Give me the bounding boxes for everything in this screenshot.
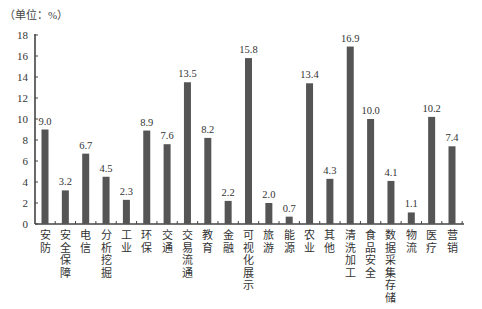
category-label-char: 流: [406, 241, 417, 254]
category-label-char: 源: [284, 241, 295, 254]
y-tick-label: 6: [23, 155, 29, 167]
category-label-char: 展: [243, 267, 254, 279]
category-label-char: 疗: [426, 241, 437, 254]
category-label-char: 掘: [101, 266, 112, 279]
category-label-char: 通: [182, 267, 193, 279]
category-label-char: 析: [101, 241, 112, 254]
bar: [143, 131, 150, 224]
category-label-char: 信: [80, 242, 91, 254]
y-tick-label: 12: [17, 92, 28, 104]
category-label-char: 清: [345, 229, 356, 241]
category-label-char: 其: [324, 229, 335, 241]
category-label-char: 安: [60, 228, 71, 241]
category-label-char: 存: [385, 278, 396, 291]
bar: [286, 217, 293, 224]
category-label-char: 医: [426, 229, 437, 241]
value-label: 15.8: [239, 44, 257, 55]
y-tick-label: 18: [17, 29, 29, 41]
value-label: 8.2: [201, 124, 214, 135]
category-label-char: 育: [202, 241, 213, 254]
bar: [164, 144, 171, 224]
value-label: 7.4: [445, 132, 459, 143]
y-tick-label: 0: [23, 218, 29, 230]
value-label: 7.6: [161, 130, 174, 141]
value-label: 4.5: [99, 163, 112, 174]
category-label-char: 易: [182, 242, 193, 254]
category-label-char: 他: [324, 242, 335, 254]
y-tick-label: 10: [17, 113, 29, 125]
category-label-char: 示: [243, 279, 254, 291]
category-label-char: 物: [406, 228, 417, 241]
category-label-char: 电: [80, 229, 91, 241]
y-tick-label: 8: [23, 134, 29, 146]
y-tick-label: 2: [23, 197, 29, 209]
category-label-char: 教: [202, 229, 213, 241]
category-label-char: 游: [263, 242, 274, 254]
value-label: 13.4: [300, 69, 319, 80]
y-tick-label: 16: [17, 50, 29, 62]
value-label: 3.2: [59, 176, 72, 187]
bar: [123, 200, 130, 224]
category-label-char: 金: [223, 228, 234, 241]
bar: [245, 58, 252, 224]
value-label: 1.1: [405, 198, 418, 209]
category-label-char: 业: [121, 242, 132, 254]
bar: [408, 212, 415, 224]
category-label-char: 工: [121, 229, 132, 241]
category-label-char: 环: [141, 229, 152, 241]
category-label-char: 视: [243, 241, 254, 254]
category-label-char: 农: [304, 228, 315, 241]
category-label-char: 数: [385, 229, 396, 241]
value-label: 10.2: [422, 103, 440, 114]
category-label-char: 全: [60, 241, 71, 254]
category-label-char: 全: [365, 266, 376, 279]
category-label-char: 据: [385, 241, 396, 254]
value-label: 9.0: [38, 116, 51, 127]
bar: [306, 83, 313, 224]
category-label-char: 保: [141, 241, 152, 254]
value-label: 2.2: [222, 187, 235, 198]
bar: [347, 47, 354, 224]
category-label-char: 集: [385, 266, 396, 279]
value-label: 2.3: [120, 186, 133, 197]
category-label-char: 储: [385, 291, 396, 304]
category-label-char: 销: [447, 241, 458, 254]
bar: [428, 117, 435, 224]
value-label: 4.3: [323, 165, 336, 176]
y-tick-label: 14: [17, 71, 29, 83]
value-label: 13.5: [178, 68, 196, 79]
category-label-char: 食: [365, 228, 376, 241]
category-label-char: 能: [284, 228, 295, 241]
category-label-char: 安: [40, 228, 51, 241]
bar: [42, 130, 49, 225]
category-label-char: 交: [182, 228, 193, 241]
value-label: 6.7: [79, 140, 92, 151]
bar: [265, 203, 272, 224]
bar: [82, 154, 89, 224]
value-label: 0.7: [283, 203, 296, 214]
value-label: 2.0: [262, 189, 275, 200]
category-label-char: 营: [447, 228, 458, 241]
value-label: 4.1: [384, 167, 397, 178]
category-label-char: 防: [40, 241, 51, 254]
category-label-char: 交: [162, 228, 173, 241]
category-label-char: 可: [243, 229, 254, 241]
category-label-char: 化: [243, 253, 254, 266]
bar-chart: 0246810121416189.0安防3.2安全保障6.7电信4.5分析挖掘2…: [0, 0, 482, 309]
bar: [367, 119, 374, 224]
category-label-char: 工: [345, 267, 356, 279]
value-label: 8.9: [140, 117, 153, 128]
bar: [184, 82, 191, 224]
bar: [204, 138, 211, 224]
category-label-char: 障: [60, 266, 71, 279]
category-label-char: 业: [304, 242, 315, 254]
category-label-char: 挖: [101, 253, 112, 266]
category-label-char: 旅: [263, 228, 274, 241]
y-tick-label: 4: [23, 176, 29, 188]
value-label: 10.0: [361, 105, 379, 116]
bar: [326, 179, 333, 224]
category-label-char: 洗: [345, 242, 356, 254]
category-label-char: 流: [182, 253, 193, 266]
value-label: 16.9: [341, 33, 359, 44]
bar: [449, 146, 456, 224]
